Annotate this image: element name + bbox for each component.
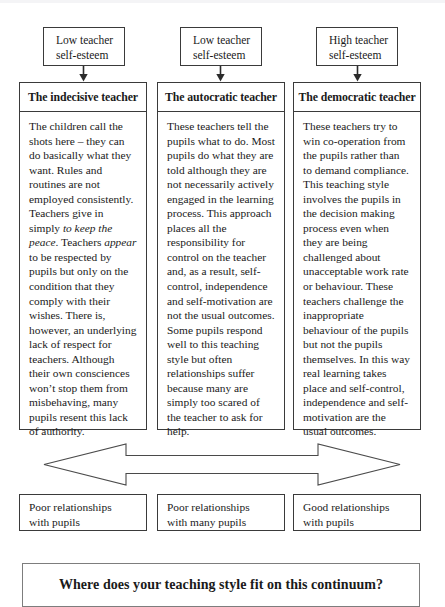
relationship-line-1: Good relationships xyxy=(303,500,420,515)
down-arrow-icon xyxy=(353,66,362,82)
column-body: The children call the shots here – they … xyxy=(20,112,146,439)
continuum-question-banner: Where does your teaching style fit on th… xyxy=(22,563,420,607)
down-arrow-icon xyxy=(79,66,88,82)
esteem-box-autocratic: Low teacher self-esteem xyxy=(180,27,262,66)
column-title: The democratic teacher xyxy=(294,83,420,105)
style-column-indecisive: The indecisive teacher The children call… xyxy=(19,82,147,430)
relationship-line-2: with pupils xyxy=(303,515,420,530)
relationship-line-2: with pupils xyxy=(29,515,146,530)
column-title: The indecisive teacher xyxy=(20,83,146,105)
esteem-line-1: Low teacher xyxy=(193,33,261,48)
esteem-line-2: self-esteem xyxy=(193,48,261,63)
relationship-line-1: Poor relationships xyxy=(167,500,284,515)
relationship-line-1: Poor relationships xyxy=(29,500,146,515)
relationship-line-2: with many pupils xyxy=(167,515,284,530)
style-column-autocratic: The autocratic teacher These teachers te… xyxy=(157,82,285,430)
banner-text: Where does your teaching style fit on th… xyxy=(59,577,383,593)
relationship-box-democratic: Good relationships with pupils xyxy=(293,494,421,531)
esteem-line-1: High teacher xyxy=(329,33,397,48)
esteem-box-indecisive: Low teacher self-esteem xyxy=(43,27,125,66)
double-headed-arrow-icon xyxy=(40,441,404,489)
column-body: These teachers try to win co-operation f… xyxy=(294,112,420,439)
esteem-line-2: self-esteem xyxy=(329,48,397,63)
style-column-democratic: The democratic teacher These teachers tr… xyxy=(293,82,421,430)
esteem-line-2: self-esteem xyxy=(56,48,124,63)
column-body: These teachers tell the pupils what to d… xyxy=(158,112,284,439)
esteem-line-1: Low teacher xyxy=(56,33,124,48)
down-arrow-icon xyxy=(216,66,225,82)
esteem-box-democratic: High teacher self-esteem xyxy=(316,27,398,66)
relationship-box-autocratic: Poor relationships with many pupils xyxy=(157,494,285,531)
column-title: The autocratic teacher xyxy=(158,83,284,105)
scan-edge-artifact xyxy=(0,0,445,3)
relationship-box-indecisive: Poor relationships with pupils xyxy=(19,494,147,531)
